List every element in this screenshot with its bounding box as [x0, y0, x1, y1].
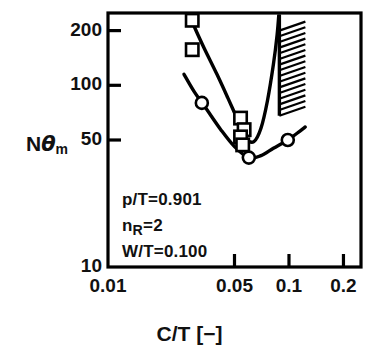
annotation-width-ratio: W/T=0.100 — [122, 242, 207, 262]
x-tick-label-0-2: 0.2 — [312, 275, 374, 297]
annotation-nr: nR=2 — [122, 216, 163, 238]
y-tick-label-200: 200 — [40, 19, 102, 41]
chart-canvas — [0, 0, 379, 358]
y-axis-label: Nθm — [26, 132, 68, 157]
annotation-pressure-ratio: p/T=0.901 — [122, 190, 202, 210]
x-axis-label: C/T [−] — [0, 322, 379, 346]
y-tick-label-100: 100 — [40, 73, 102, 95]
figure: 200 100 50 10 0.01 0.05 0.1 0.2 Nθm C/T … — [0, 0, 379, 358]
x-tick-label-0-01: 0.01 — [77, 275, 139, 297]
x-tick-label-0-05: 0.05 — [204, 275, 266, 297]
x-tick-label-0-1: 0.1 — [258, 275, 320, 297]
y-tick-label-10: 10 — [40, 255, 102, 277]
